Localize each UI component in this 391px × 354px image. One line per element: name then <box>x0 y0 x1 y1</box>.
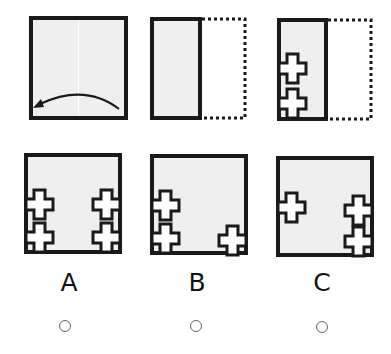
option-c-label: C <box>302 270 342 295</box>
dotted-outline <box>328 20 371 119</box>
option-b-figure <box>152 156 246 255</box>
puzzle-figure <box>0 0 391 354</box>
step-2-paper <box>152 19 245 118</box>
step-3-paper <box>279 20 371 119</box>
option-b-radio[interactable] <box>190 320 202 332</box>
option-a-figure <box>26 155 120 252</box>
option-a-radio[interactable] <box>59 320 71 332</box>
step-1-paper <box>31 18 126 118</box>
dotted-outline <box>202 19 245 118</box>
option-a-label: A <box>49 270 89 295</box>
option-c-radio[interactable] <box>316 321 328 333</box>
option-b-label: B <box>177 270 217 295</box>
option-c-figure <box>278 158 372 256</box>
